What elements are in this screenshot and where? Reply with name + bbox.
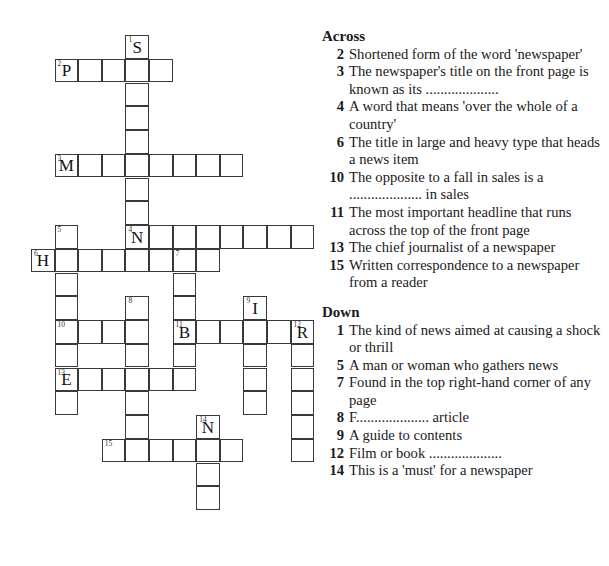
clue-across-3: 3The newspaper's title on the front page…: [322, 63, 607, 98]
grid-cell[interactable]: 14N: [196, 415, 220, 439]
grid-cell[interactable]: [149, 249, 173, 273]
grid-cell[interactable]: 15: [102, 439, 126, 463]
grid-cell[interactable]: [55, 249, 79, 273]
grid-cell[interactable]: [55, 296, 79, 320]
grid-cell[interactable]: [220, 320, 244, 344]
grid-cell[interactable]: [102, 368, 126, 392]
grid-cell[interactable]: 2P: [55, 59, 79, 83]
grid-cell[interactable]: [102, 59, 126, 83]
grid-cell[interactable]: [243, 320, 267, 344]
grid-cell[interactable]: [125, 154, 149, 178]
grid-cell[interactable]: [125, 59, 149, 83]
grid-cell[interactable]: [291, 368, 315, 392]
grid-cell[interactable]: [102, 320, 126, 344]
clue-across-2: 2Shortened form of the word 'newspaper': [322, 46, 607, 64]
grid-cell[interactable]: [173, 368, 197, 392]
given-letter: B: [174, 324, 196, 342]
grid-cell[interactable]: 3M: [55, 154, 79, 178]
given-letter: S: [126, 39, 148, 57]
given-letter: N: [126, 229, 148, 247]
clue-across-15: 15Written correspondence to a newspaper …: [322, 257, 607, 292]
grid-cell[interactable]: [243, 344, 267, 368]
grid-cell[interactable]: [196, 463, 220, 487]
grid-cell[interactable]: [78, 320, 102, 344]
grid-cell[interactable]: [125, 130, 149, 154]
grid-cell[interactable]: [196, 486, 220, 510]
clue-number: 15: [105, 440, 113, 448]
grid-cell[interactable]: [78, 249, 102, 273]
down-heading: Down: [322, 304, 607, 322]
grid-cell[interactable]: [55, 344, 79, 368]
grid-cell[interactable]: [291, 439, 315, 463]
grid-cell[interactable]: [125, 439, 149, 463]
grid-cell[interactable]: [78, 154, 102, 178]
grid-cell[interactable]: [102, 154, 126, 178]
grid-cell[interactable]: [55, 273, 79, 297]
grid-cell[interactable]: [173, 273, 197, 297]
grid-cell[interactable]: 12R: [291, 320, 315, 344]
grid-cell[interactable]: 5: [55, 225, 79, 249]
grid-cell[interactable]: [125, 83, 149, 107]
grid-cell[interactable]: [149, 154, 173, 178]
clue-number: 8: [128, 297, 132, 305]
grid-cell[interactable]: [173, 344, 197, 368]
grid-cell[interactable]: [125, 106, 149, 130]
grid-cell[interactable]: [125, 368, 149, 392]
grid-cell[interactable]: [149, 439, 173, 463]
grid-cell[interactable]: [196, 225, 220, 249]
grid-cell[interactable]: 4N: [125, 225, 149, 249]
clue-down-1: 1The kind of news aimed at causing a sho…: [322, 322, 607, 357]
across-heading: Across: [322, 28, 607, 46]
grid-cell[interactable]: [243, 368, 267, 392]
grid-cell[interactable]: [291, 415, 315, 439]
grid-cell[interactable]: [125, 320, 149, 344]
grid-cell[interactable]: [125, 201, 149, 225]
grid-cell[interactable]: [243, 391, 267, 415]
grid-cell[interactable]: [196, 154, 220, 178]
grid-cell[interactable]: 8: [125, 296, 149, 320]
clue-across-6: 6The title in large and heavy type that …: [322, 134, 607, 169]
grid-cell[interactable]: 10: [55, 320, 79, 344]
grid-cell[interactable]: [173, 154, 197, 178]
given-letter: E: [56, 371, 78, 389]
grid-cell[interactable]: 11B: [173, 320, 197, 344]
grid-cell[interactable]: 6H: [31, 249, 55, 273]
clue-across-10: 10The opposite to a fall in sales is a .…: [322, 169, 607, 204]
grid-cell[interactable]: 9I: [243, 296, 267, 320]
given-letter: R: [292, 324, 314, 342]
grid-cell[interactable]: [125, 344, 149, 368]
grid-cell[interactable]: [149, 59, 173, 83]
grid-cell[interactable]: [102, 249, 126, 273]
grid-cell[interactable]: [173, 296, 197, 320]
grid-cell[interactable]: [78, 59, 102, 83]
grid-cell[interactable]: [196, 249, 220, 273]
grid-cell[interactable]: [196, 439, 220, 463]
grid-cell[interactable]: [291, 391, 315, 415]
grid-cell[interactable]: [149, 368, 173, 392]
grid-cell[interactable]: [173, 439, 197, 463]
grid-cell[interactable]: [196, 320, 220, 344]
grid-cell[interactable]: 13E: [55, 368, 79, 392]
grid-cell[interactable]: [220, 225, 244, 249]
grid-cell[interactable]: [125, 178, 149, 202]
grid-cell[interactable]: 1S: [125, 35, 149, 59]
grid-cell[interactable]: [267, 225, 291, 249]
grid-cell[interactable]: [149, 225, 173, 249]
grid-cell[interactable]: [125, 415, 149, 439]
grid-cell[interactable]: [220, 439, 244, 463]
grid-cell[interactable]: [125, 391, 149, 415]
clues-panel: Across 2Shortened form of the word 'news…: [322, 28, 607, 492]
grid-cell[interactable]: [173, 225, 197, 249]
grid-cell[interactable]: [291, 225, 315, 249]
clue-down-5: 5A man or woman who gathers news: [322, 357, 607, 375]
grid-cell[interactable]: [243, 225, 267, 249]
given-letter: M: [56, 157, 78, 175]
grid-cell[interactable]: [55, 391, 79, 415]
grid-cell[interactable]: [220, 154, 244, 178]
grid-cell[interactable]: 7: [173, 249, 197, 273]
grid-cell[interactable]: [267, 320, 291, 344]
grid-cell[interactable]: [78, 368, 102, 392]
grid-cell[interactable]: [125, 249, 149, 273]
grid-cell[interactable]: [291, 344, 315, 368]
clue-across-13: 13The chief journalist of a newspaper: [322, 239, 607, 257]
